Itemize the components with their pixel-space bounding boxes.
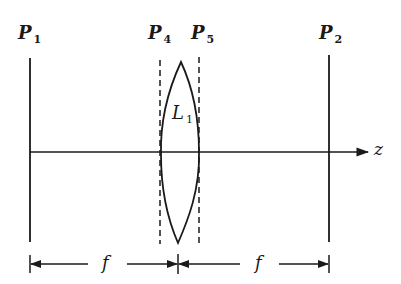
plane-p2-subscript: 2 [335,33,343,46]
dimension-f-left-label: f [102,254,109,272]
plane-p1-base: P [18,22,32,43]
dimension-f-right-label: f [255,254,262,272]
plane-p1-subscript: 1 [34,33,42,46]
plane-p4-base: P [148,22,162,43]
plane-p1-label: P1 [18,24,41,49]
plane-p4-label: P4 [148,24,171,49]
plane-p5-base: P [191,22,205,43]
lens-l1-label: L1 [172,104,193,129]
plane-p4-subscript: 4 [164,33,172,46]
lens-l1-base: L [172,102,184,123]
lens-l1-subscript: 1 [186,113,193,126]
plane-p2-label: P2 [319,24,342,49]
plane-p2-base: P [319,22,333,43]
plane-p5-label: P5 [191,24,214,49]
plane-p5-subscript: 5 [207,33,215,46]
axis-z-label: z [374,141,383,158]
